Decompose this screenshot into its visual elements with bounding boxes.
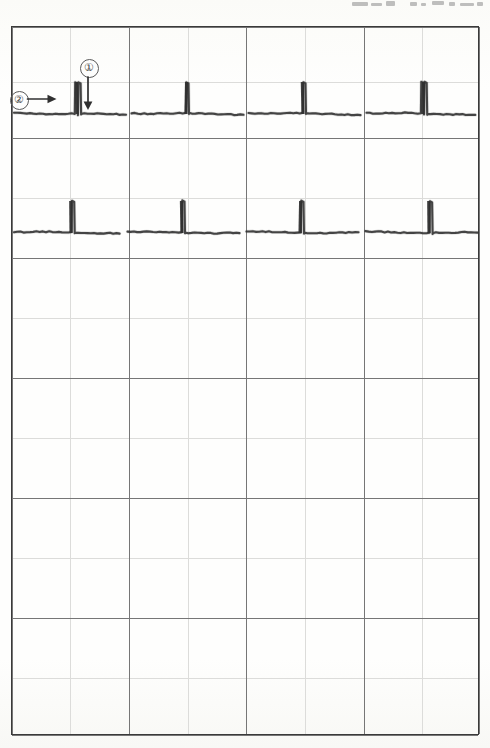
page-root: ① ② Chart recorder trace on graph paper …	[0, 0, 490, 748]
trace-spike	[300, 201, 301, 233]
grid-line-vertical	[305, 27, 306, 734]
trace-segment	[14, 201, 120, 234]
annotation-arrow-right-icon	[26, 91, 61, 107]
handwriting-stroke	[432, 1, 444, 5]
trace-spike	[186, 82, 187, 114]
trace-spike	[181, 201, 182, 233]
trace-segment	[247, 201, 359, 234]
trace-segment-smear	[367, 82, 476, 115]
grid-line-vertical	[246, 27, 247, 734]
trace-segment-smear	[247, 201, 359, 234]
grid-line-vertical	[422, 27, 423, 734]
handwriting-stroke	[460, 3, 474, 6]
grid-line-horizontal	[12, 498, 478, 499]
trace-segment-smear	[132, 82, 244, 115]
grid-line-vertical	[479, 27, 480, 734]
handwriting-stroke	[352, 2, 368, 6]
grid-line-horizontal	[12, 258, 478, 259]
handwriting-stroke	[371, 3, 382, 6]
trace-segment-smear	[14, 201, 120, 234]
trace-spike	[423, 82, 424, 114]
trace-segment	[128, 200, 240, 233]
grid-line-horizontal	[12, 735, 478, 736]
recorder-traces	[12, 27, 480, 736]
trace-segment-smear	[128, 200, 240, 233]
grid-line-horizontal	[12, 438, 478, 439]
grid-line-vertical	[12, 27, 13, 734]
handwriting-stroke	[386, 1, 395, 6]
grid-line-horizontal	[12, 678, 478, 679]
grid-line-horizontal	[12, 138, 478, 139]
grid-line-vertical	[188, 27, 189, 734]
grid-line-horizontal	[12, 618, 478, 619]
grid-line-horizontal	[12, 318, 478, 319]
grid-line-horizontal	[12, 27, 478, 28]
grid-line-vertical	[129, 27, 130, 734]
handwriting-stroke	[477, 2, 483, 6]
grid-lines	[12, 27, 478, 734]
grid-line-horizontal	[12, 378, 478, 379]
grid-line-horizontal	[12, 198, 478, 199]
trace-segment-smear	[249, 82, 361, 115]
grid-line-horizontal	[12, 558, 478, 559]
handwriting-stroke	[421, 3, 426, 6]
grid-line-vertical	[364, 27, 365, 734]
trace-segment	[132, 82, 244, 115]
trace-spike	[302, 82, 303, 114]
trace-segment	[367, 82, 476, 115]
trace-segment	[366, 201, 478, 234]
grid-line-vertical	[70, 27, 71, 734]
trace-segment	[249, 82, 361, 115]
annotation-arrow-down-icon	[79, 76, 97, 116]
handwriting-stroke	[410, 2, 417, 6]
annotation-marker-1: ①	[80, 59, 99, 78]
trace-segment-smear	[366, 201, 478, 234]
top-edge-handwriting	[352, 0, 484, 9]
graph-paper-frame	[11, 26, 479, 735]
handwriting-stroke	[449, 2, 455, 6]
